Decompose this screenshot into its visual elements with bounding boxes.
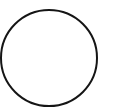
canvas [0, 0, 113, 111]
circle-outline [1, 10, 97, 106]
